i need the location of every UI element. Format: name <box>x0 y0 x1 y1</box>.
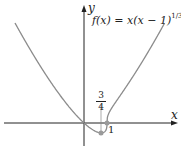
function-curve <box>15 23 165 133</box>
function-exponent: 1/3 <box>171 12 181 20</box>
root-label: 1 <box>108 124 114 135</box>
function-graph: y x f(x) = x(x − 1)1/3 3 4 1 <box>0 0 181 153</box>
function-label-text: f(x) = x(x − 1) <box>92 14 171 27</box>
fraction-numerator: 3 <box>96 91 106 100</box>
x-axis-label: x <box>171 108 178 122</box>
min-x-fraction: 3 4 <box>96 91 106 112</box>
fraction-denominator: 4 <box>96 103 106 112</box>
function-label: f(x) = x(x − 1)1/3 <box>92 10 181 28</box>
y-axis-arrow-icon <box>82 5 87 12</box>
minimum-point <box>99 130 104 135</box>
